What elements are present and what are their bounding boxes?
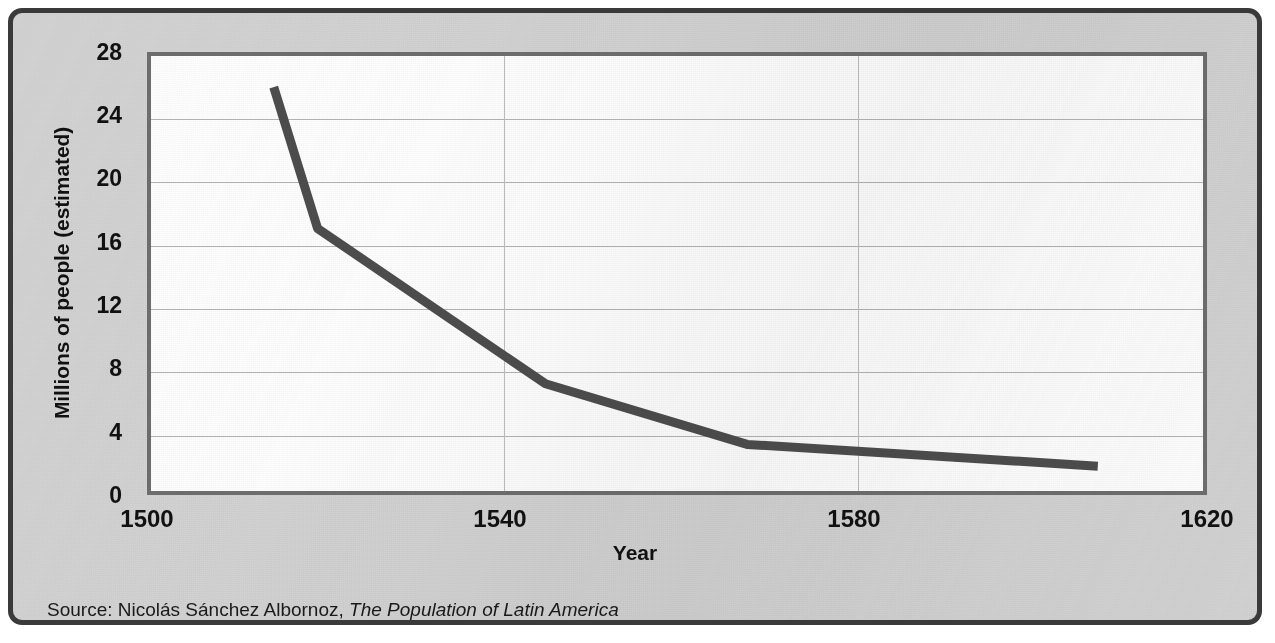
y-tick-label: 24: [62, 102, 122, 129]
x-tick-label: 1540: [440, 505, 560, 533]
y-tick-label: 16: [62, 229, 122, 256]
x-tick-label: 1500: [87, 505, 207, 533]
x-tick-label: 1620: [1147, 505, 1267, 533]
plot-inner: [151, 56, 1203, 491]
source-prefix: Source: Nicolás Sánchez Albornoz,: [47, 599, 349, 620]
y-tick-label: 20: [62, 165, 122, 192]
figure-root: Millions of people (estimated) 28 24 20 …: [0, 0, 1275, 643]
plot-area: [147, 52, 1207, 495]
y-tick-label: 8: [62, 355, 122, 382]
figure-card: Millions of people (estimated) 28 24 20 …: [8, 8, 1262, 625]
y-tick-label: 12: [62, 292, 122, 319]
y-tick-label: 4: [62, 419, 122, 446]
x-tick-label: 1580: [794, 505, 914, 533]
series-line: [151, 56, 1203, 491]
source-work-title: The Population of Latin America: [349, 599, 619, 620]
y-tick-label: 28: [62, 39, 122, 66]
source-note: Source: Nicolás Sánchez Albornoz, The Po…: [47, 599, 619, 621]
x-axis-title: Year: [13, 541, 1257, 565]
